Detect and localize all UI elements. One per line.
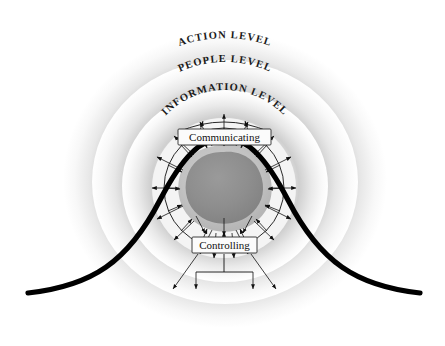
diagram-canvas: ACTION LEVEL PEOPLE LEVEL INFORMATION LE…: [0, 0, 445, 346]
core-blob: [186, 152, 263, 224]
box-communicating[interactable]: Communicating: [178, 129, 271, 145]
levels-diagram: ACTION LEVEL PEOPLE LEVEL INFORMATION LE…: [0, 0, 445, 346]
box-controlling[interactable]: Controlling: [192, 237, 257, 253]
communicating-label: Communicating: [189, 131, 260, 143]
controlling-label: Controlling: [199, 239, 250, 251]
